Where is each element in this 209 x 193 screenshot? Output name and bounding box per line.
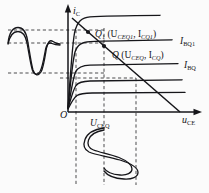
figure-canvas: iC uCE O Q1 (UCEQ1, ICQ1) IBQ1 Q (UCEQ, … [0, 0, 209, 193]
operating-point-q-dot [102, 44, 106, 48]
y-axis-label-sub: C [76, 10, 80, 17]
output-waveform-trace-outer [84, 128, 138, 179]
x-axis-arrowhead [194, 109, 203, 115]
y-axis-label: iC [73, 5, 80, 17]
ucq-label: UCEQ [90, 118, 110, 129]
q1-coords-open: (U [105, 29, 118, 40]
input-waveform-trace-outer [8, 28, 60, 75]
input-waveform-trace-inner [8, 32, 60, 75]
operating-point-q1-dot [86, 30, 90, 34]
q1-coords-mid: , I [133, 29, 141, 39]
y-axis-arrowhead [65, 4, 71, 13]
bjt-output-characteristic-figure: iC uCE O Q1 (UCEQ1, ICQ1) IBQ1 Q (UCEQ, … [0, 0, 209, 193]
ib-curve-3-ibq [68, 64, 178, 108]
q1-coords-sub2: CQ1 [141, 33, 153, 40]
x-axis-label: uCE [182, 114, 195, 126]
origin-label: O [60, 109, 67, 120]
q-coords-sub1: CEQ [131, 54, 144, 61]
q-annotation: Q (UCEQ, ICQ) [112, 50, 164, 61]
input-base-current-waveform [8, 28, 60, 75]
output-waveform-trace-inner [88, 130, 132, 175]
q-coords-close: ) [161, 50, 164, 61]
ibq-label: IBQ [183, 60, 196, 71]
output-voltage-waveform [84, 128, 138, 179]
x-axis-label-sub: CE [187, 119, 195, 126]
ibq1-label: IBQ1 [179, 36, 195, 47]
q1-coords-close: ) [153, 29, 156, 40]
q1-annotation: Q1 (UCEQ1, ICQ1) [95, 29, 156, 40]
ibq1-label-sub: BQ1 [183, 40, 195, 47]
q-coords-open: (U [119, 50, 132, 61]
q-coords-mid: , I [144, 50, 152, 60]
ibq-label-sub: BQ [187, 64, 196, 71]
q1-coords-sub1: CEQ1 [117, 33, 133, 40]
ucq-label-sub: CEQ [97, 122, 110, 129]
